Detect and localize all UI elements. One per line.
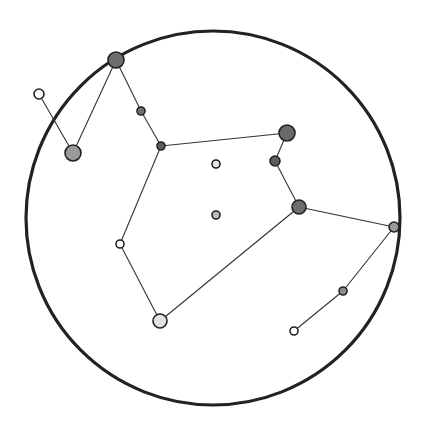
star-N: [212, 160, 220, 168]
star-B: [34, 89, 44, 99]
edge-J-K: [294, 291, 343, 331]
edge-I-J: [343, 227, 394, 291]
star-K: [290, 327, 298, 335]
edge-D-E: [141, 111, 161, 146]
star-C: [65, 145, 81, 161]
edge-M-H: [160, 207, 299, 321]
star-D: [137, 107, 145, 115]
star-F: [279, 125, 295, 141]
edge-L-M: [120, 244, 160, 321]
star-J: [339, 287, 347, 295]
star-O: [212, 211, 220, 219]
star-E: [157, 142, 165, 150]
constellation-stars: [34, 52, 399, 335]
star-H: [292, 200, 306, 214]
edge-E-L: [120, 146, 161, 244]
edge-E-F: [161, 133, 287, 146]
constellation-canvas: [0, 0, 426, 435]
edge-B-C: [39, 94, 73, 153]
star-G: [270, 156, 280, 166]
star-M: [153, 314, 167, 328]
constellation-diagram: [0, 0, 426, 435]
star-A: [108, 52, 124, 68]
edge-H-I: [299, 207, 394, 227]
star-I: [389, 222, 399, 232]
star-L: [116, 240, 124, 248]
